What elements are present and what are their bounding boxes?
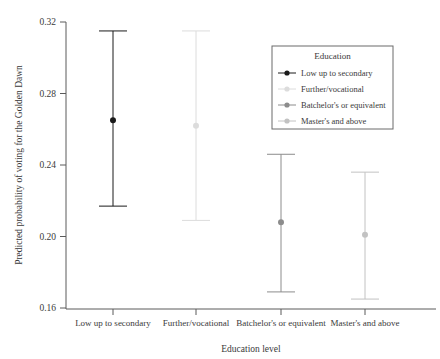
x-tick-label: Low up to secondary: [75, 318, 151, 328]
legend-marker-dot: [284, 70, 289, 75]
legend-marker-dot: [284, 86, 289, 91]
x-tick-label: Further/vocational: [163, 318, 230, 328]
data-series: [99, 31, 127, 206]
legend: Education Low up to secondaryFurther/voc…: [272, 46, 393, 129]
y-tick-label: 0.20: [39, 232, 56, 242]
error-bar-plot: 0.160.200.240.280.32 Low up to secondary…: [0, 0, 440, 359]
chart-container: 0.160.200.240.280.32 Low up to secondary…: [0, 0, 440, 359]
x-tick-label: Batchelor's or equivalent: [236, 318, 326, 328]
x-axis-title: Education level: [221, 344, 281, 354]
y-tick-label: 0.32: [39, 17, 56, 27]
legend-title: Education: [314, 51, 351, 61]
legend-entry-label: Master's and above: [301, 116, 366, 126]
y-tick-label: 0.16: [39, 303, 56, 313]
data-point-marker: [110, 117, 116, 123]
data-point-marker: [278, 219, 284, 225]
data-series: [182, 31, 210, 220]
data-series: [267, 154, 295, 292]
legend-marker-dot: [284, 118, 289, 123]
data-series: [351, 172, 379, 299]
data-point-marker: [193, 123, 199, 129]
y-tick-label: 0.24: [39, 160, 56, 170]
legend-entry-label: Further/vocational: [301, 84, 364, 94]
y-axis-title: Predicted probability of voting for the …: [14, 65, 24, 265]
x-tick-label: Master's and above: [330, 318, 399, 328]
legend-entry-label: Batchelor's or equivalent: [301, 100, 386, 110]
y-tick-label: 0.28: [39, 89, 56, 99]
legend-entry-label: Low up to secondary: [301, 68, 373, 78]
legend-marker-dot: [284, 102, 289, 107]
y-axis: 0.160.200.240.280.32: [39, 17, 66, 313]
data-point-marker: [362, 232, 368, 238]
x-axis: Low up to secondaryFurther/vocationalBat…: [66, 309, 436, 328]
